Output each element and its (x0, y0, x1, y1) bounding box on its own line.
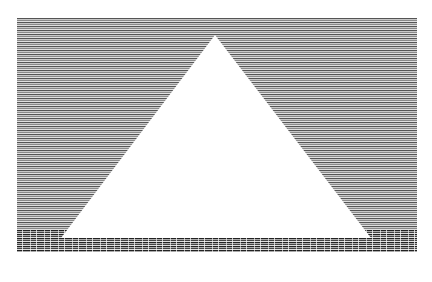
white-triangle (17, 18, 417, 252)
halftone-image (17, 18, 417, 252)
